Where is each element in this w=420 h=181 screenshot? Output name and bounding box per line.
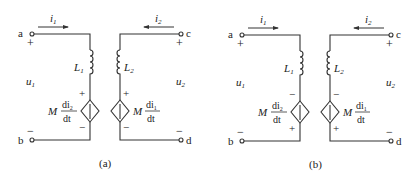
- wire-top-right: [120, 34, 179, 50]
- svg-text:dt: dt: [147, 113, 155, 124]
- figure-caption-b: (b): [309, 158, 322, 171]
- svg-text:di2: di2: [62, 99, 73, 111]
- svg-text:dt: dt: [63, 113, 71, 124]
- port-sign-d: −: [176, 124, 183, 138]
- source-expr-right: M di1 dt: [132, 99, 160, 124]
- source-right-bottom-sign: +: [333, 122, 339, 134]
- inductor-l2: [117, 50, 120, 100]
- svg-text:di2: di2: [272, 100, 283, 112]
- current-label-i1: i1: [50, 12, 57, 26]
- svg-text:M: M: [342, 106, 353, 118]
- port-sign-a: +: [237, 37, 244, 51]
- circuit-figure-a: i1 i2 a b c d + − + − u1 u2 L1 L2 + − + …: [18, 12, 192, 170]
- wire-top-left: [34, 34, 90, 50]
- source-left-top-sign: −: [289, 88, 295, 100]
- wire-top-left: [244, 35, 300, 51]
- svg-text:M: M: [132, 105, 143, 117]
- source-expr-left: M di2 dt: [47, 99, 77, 124]
- terminal-b: [240, 139, 244, 143]
- terminal-label-c: c: [186, 27, 191, 39]
- circuit-figure-b: i1 i2 a b c d + − + − u1 u2 L1 L2 − + − …: [228, 13, 402, 171]
- terminal-label-b: b: [18, 134, 24, 146]
- inductor-l1: [300, 51, 303, 101]
- voltage-label-u2: u2: [176, 75, 186, 89]
- figure-caption-a: (a): [99, 157, 112, 170]
- svg-text:di1: di1: [356, 100, 367, 112]
- source-expr-left: M di2 dt: [257, 100, 287, 125]
- source-right-top-sign: −: [333, 88, 339, 100]
- svg-text:dt: dt: [273, 114, 281, 125]
- terminal-label-c: c: [396, 28, 401, 40]
- voltage-label-u2: u2: [386, 76, 396, 90]
- voltage-label-u1: u1: [26, 75, 35, 89]
- terminal-b: [30, 138, 34, 142]
- inductor-label-l2: L2: [123, 61, 134, 75]
- inductor-label-l1: L1: [283, 62, 294, 76]
- svg-text:M: M: [257, 106, 268, 118]
- source-left-bottom-sign: +: [289, 122, 295, 134]
- inductor-label-l2: L2: [333, 62, 344, 76]
- source-right-top-sign: +: [123, 87, 129, 99]
- source-expr-right: M di1 dt: [342, 100, 370, 125]
- terminal-label-d: d: [186, 134, 192, 146]
- inductor-l2: [327, 51, 330, 101]
- terminal-label-b: b: [228, 135, 234, 147]
- source-right-bottom-sign: −: [123, 121, 129, 133]
- port-sign-d: −: [386, 125, 393, 139]
- svg-text:dt: dt: [357, 114, 365, 125]
- port-sign-b: −: [27, 124, 34, 138]
- terminal-label-d: d: [396, 135, 402, 147]
- voltage-label-u1: u1: [236, 76, 245, 90]
- terminal-label-a: a: [18, 27, 23, 39]
- port-sign-c: +: [176, 36, 183, 50]
- inductor-l1: [90, 50, 93, 100]
- current-label-i2: i2: [155, 12, 162, 26]
- source-left-bottom-sign: −: [79, 121, 85, 133]
- wire-top-right: [330, 35, 389, 51]
- port-sign-b: −: [237, 125, 244, 139]
- svg-text:di1: di1: [146, 99, 157, 111]
- svg-text:M: M: [47, 105, 58, 117]
- current-label-i1: i1: [260, 13, 267, 27]
- terminal-label-a: a: [228, 28, 233, 40]
- terminal-d: [389, 139, 393, 143]
- current-label-i2: i2: [365, 13, 372, 27]
- port-sign-a: +: [27, 36, 34, 50]
- port-sign-c: +: [386, 37, 393, 51]
- terminal-d: [179, 138, 183, 142]
- inductor-label-l1: L1: [73, 61, 84, 75]
- source-left-top-sign: +: [79, 87, 85, 99]
